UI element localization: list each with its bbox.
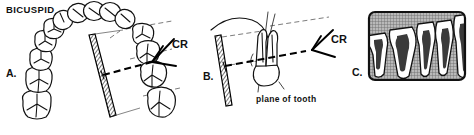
bicuspid-radiography-figure: BICUSPID A. <box>0 0 474 135</box>
panel-b-plane-of-tooth-label: plane of tooth <box>256 94 316 104</box>
panel-a-letter: A. <box>6 67 17 79</box>
figure-title: BICUSPID <box>6 4 55 15</box>
panel-b-cr-label: CR <box>331 33 347 45</box>
tooth-outline <box>137 41 160 64</box>
panel-b-letter: B. <box>203 70 214 82</box>
panel-c: C. <box>352 12 470 80</box>
panel-c-letter: C. <box>352 66 363 78</box>
tooth-outline <box>23 90 52 119</box>
tooth-outline <box>148 87 176 117</box>
tooth-outline <box>141 61 167 87</box>
panel-a-cr-label: CR <box>172 38 188 50</box>
